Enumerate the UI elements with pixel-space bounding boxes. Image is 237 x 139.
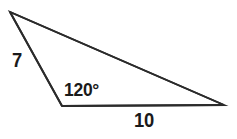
side-length-label-left: 7: [12, 50, 22, 70]
triangle-shape: [0, 0, 237, 139]
triangle-edge-base: [62, 105, 224, 106]
triangle-figure: 7 120° 10: [0, 0, 237, 139]
side-length-label-base: 10: [134, 110, 154, 130]
angle-measure-label: 120°: [64, 80, 99, 99]
